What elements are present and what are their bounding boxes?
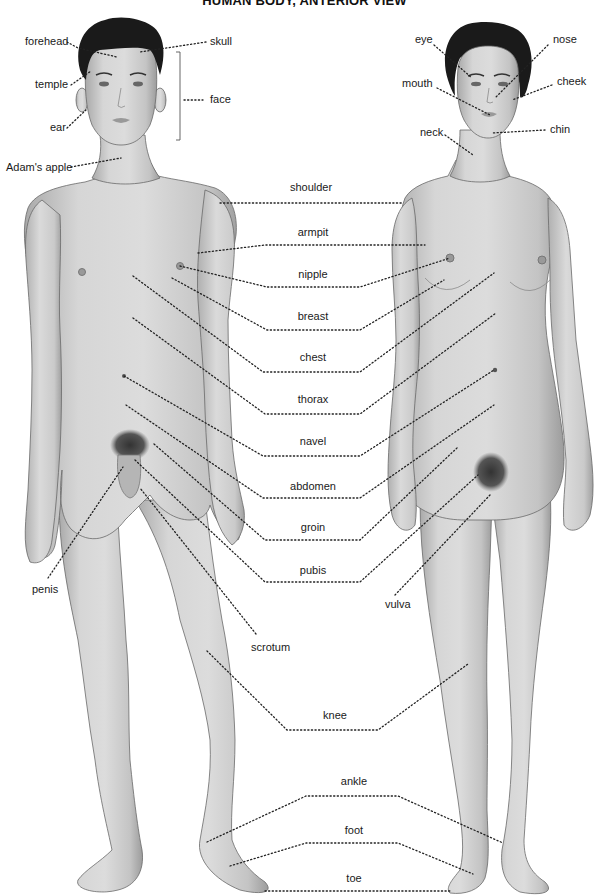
label-face: face bbox=[210, 93, 231, 105]
anatomy-diagram: forehead skull temple face ear Adam's ap… bbox=[0, 0, 609, 896]
label-chest: chest bbox=[300, 351, 326, 363]
label-forehead: forehead bbox=[25, 35, 68, 47]
female-nipple-left bbox=[446, 254, 454, 262]
label-chin: chin bbox=[550, 123, 570, 135]
label-mouth: mouth bbox=[402, 77, 433, 89]
label-pubis: pubis bbox=[300, 564, 327, 576]
female-face bbox=[457, 46, 519, 138]
female-left-arm bbox=[388, 198, 420, 530]
female-eye-right bbox=[498, 82, 508, 86]
label-abdomen: abdomen bbox=[290, 480, 336, 492]
female-pubic-hair bbox=[473, 452, 509, 492]
female-eye-left bbox=[471, 82, 481, 86]
label-neck: neck bbox=[420, 126, 444, 138]
label-cheek: cheek bbox=[557, 75, 587, 87]
label-adams-apple: Adam's apple bbox=[6, 161, 72, 173]
female-figure bbox=[388, 22, 593, 894]
female-left-leg bbox=[420, 500, 492, 893]
label-vulva: vulva bbox=[385, 598, 412, 610]
leader-foot bbox=[230, 843, 473, 874]
label-penis: penis bbox=[32, 583, 59, 595]
label-scrotum: scrotum bbox=[251, 641, 290, 653]
male-nipple-left bbox=[79, 269, 86, 276]
label-eye: eye bbox=[415, 33, 433, 45]
male-eye-left bbox=[99, 82, 109, 87]
female-navel bbox=[493, 368, 497, 372]
label-temple: temple bbox=[35, 78, 68, 90]
label-ankle: ankle bbox=[341, 775, 367, 787]
label-knee: knee bbox=[323, 709, 347, 721]
label-nipple: nipple bbox=[298, 268, 327, 280]
label-groin: groin bbox=[301, 521, 325, 533]
label-navel: navel bbox=[300, 435, 326, 447]
label-foot: foot bbox=[345, 824, 363, 836]
label-ear: ear bbox=[50, 121, 66, 133]
female-right-leg bbox=[492, 490, 551, 894]
female-nipple-right bbox=[538, 256, 546, 264]
label-breast: breast bbox=[298, 310, 329, 322]
label-shoulder: shoulder bbox=[290, 181, 333, 193]
label-toe: toe bbox=[346, 872, 361, 884]
label-armpit: armpit bbox=[298, 226, 329, 238]
leader-ear bbox=[67, 110, 86, 128]
male-right-leg bbox=[135, 500, 268, 893]
face-bracket bbox=[176, 52, 180, 140]
male-face bbox=[85, 38, 157, 145]
male-eye-right bbox=[133, 82, 143, 87]
male-figure bbox=[24, 18, 268, 893]
female-neck bbox=[450, 130, 510, 182]
label-nose: nose bbox=[553, 33, 577, 45]
label-skull: skull bbox=[210, 35, 232, 47]
label-thorax: thorax bbox=[298, 393, 329, 405]
